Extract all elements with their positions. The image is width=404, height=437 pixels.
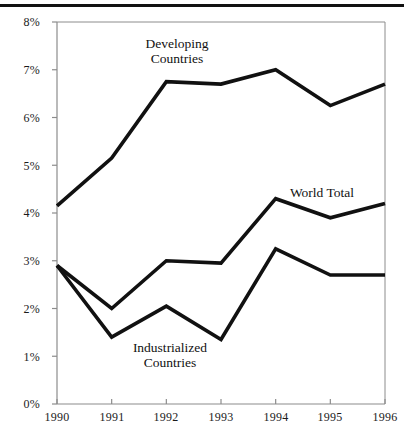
series-label-world-total-line1: World Total — [272, 185, 372, 200]
chart-figure: 8% 7% 6% 5% 4% 3% 2% 1% 0% 1990 1991 199… — [0, 0, 404, 437]
y-tick-label-2: 2% — [6, 302, 40, 317]
y-tick-label-3: 3% — [6, 254, 40, 269]
y-axis-ticks — [52, 22, 57, 404]
y-tick-label-5: 5% — [6, 159, 40, 174]
x-tick-label-1994: 1994 — [249, 410, 303, 425]
x-tick-label-1996: 1996 — [358, 410, 404, 425]
series-lines — [57, 70, 385, 340]
y-tick-label-6: 6% — [6, 111, 40, 126]
x-axis-ticks — [57, 399, 385, 404]
series-label-industrialized-countries: Industrialized Countries — [108, 340, 232, 370]
x-tick-label-1993: 1993 — [194, 410, 248, 425]
x-tick-label-1991: 1991 — [85, 410, 139, 425]
series-label-developing-countries: Developing Countries — [118, 36, 236, 66]
y-tick-label-1: 1% — [6, 350, 40, 365]
series-label-industrialized-line2: Countries — [108, 355, 232, 370]
x-tick-label-1995: 1995 — [303, 410, 357, 425]
y-tick-label-4: 4% — [6, 206, 40, 221]
x-tick-label-1990: 1990 — [30, 410, 84, 425]
y-tick-label-7: 7% — [6, 63, 40, 78]
y-tick-label-8: 8% — [6, 15, 40, 30]
series-label-developing-line1: Developing — [118, 36, 236, 51]
series-label-industrialized-line1: Industrialized — [108, 340, 232, 355]
series-label-developing-line2: Countries — [118, 51, 236, 66]
series-line-world-total — [57, 199, 385, 309]
series-label-world-total: World Total — [272, 185, 372, 200]
x-tick-label-1992: 1992 — [139, 410, 193, 425]
